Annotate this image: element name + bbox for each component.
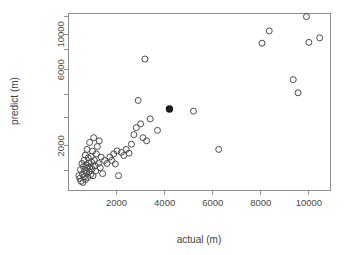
y-tick-label: 2000: [55, 135, 66, 156]
data-point: [216, 146, 222, 152]
data-point: [135, 97, 141, 103]
data-point: [290, 77, 296, 83]
x-axis-tick-labels: 200040006000800010000: [106, 197, 322, 208]
data-point: [295, 90, 301, 96]
data-point: [138, 121, 144, 127]
x-tick-label: 10000: [296, 197, 322, 208]
x-tick-label: 4000: [154, 197, 175, 208]
plot-canvas: 2000600010000 200040006000800010000 actu…: [0, 0, 348, 255]
data-point: [303, 14, 309, 20]
data-point: [266, 28, 272, 34]
x-tick-label: 2000: [106, 197, 127, 208]
x-axis-title: actual (m): [177, 234, 221, 245]
y-axis-title: predict (m): [9, 77, 20, 125]
data-point: [98, 154, 104, 160]
x-tick-label: 8000: [250, 197, 271, 208]
y-tick-label: 6000: [55, 59, 66, 80]
data-point: [94, 144, 100, 150]
data-point: [128, 141, 134, 147]
data-point: [147, 116, 153, 122]
data-point: [91, 135, 97, 141]
x-axis-ticks: [117, 191, 309, 196]
data-point: [96, 138, 102, 144]
scatter-plot-figure: 2000600010000 200040006000800010000 actu…: [0, 0, 348, 255]
data-point: [317, 35, 323, 41]
y-tick-label: 10000: [55, 21, 66, 47]
data-point: [154, 127, 160, 133]
data-point: [190, 108, 196, 114]
data-point: [116, 173, 122, 179]
data-point: [259, 40, 265, 46]
data-point: [142, 56, 148, 62]
data-point: [112, 161, 118, 167]
data-points: [76, 14, 323, 186]
data-point: [100, 171, 106, 177]
y-axis-tick-labels: 2000600010000: [55, 21, 66, 156]
data-point-highlighted: [166, 106, 172, 112]
data-point: [306, 39, 312, 45]
plot-frame: [69, 14, 331, 191]
data-point: [131, 132, 137, 138]
x-tick-label: 6000: [202, 197, 223, 208]
